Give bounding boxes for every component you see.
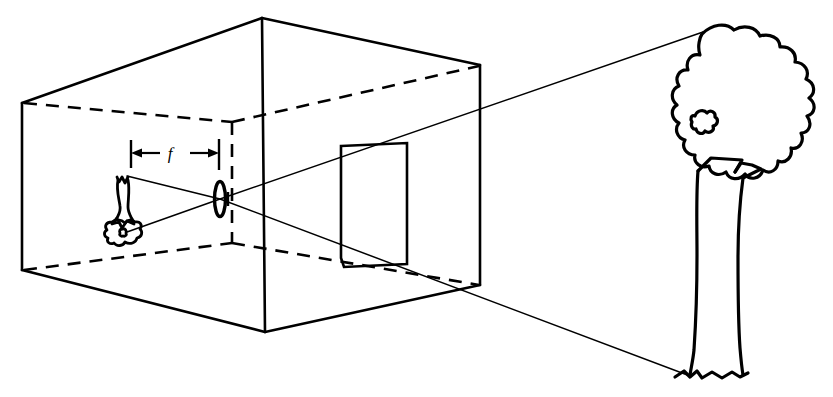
tree-canopy-hole (691, 111, 717, 134)
box-edge-top-right-slant (262, 18, 480, 65)
box-edge-bottom-right-slant (265, 285, 480, 332)
inverted-image-canopy-hole (120, 229, 127, 236)
lower-ray (127, 176, 690, 376)
focal-dim-left-arrowhead (131, 149, 142, 158)
hidden-edge-bottom-back-left (24, 243, 232, 270)
inverted-image-trunk-left (117, 180, 120, 218)
focal-length-dimension: f (131, 139, 219, 170)
tree-object (672, 25, 814, 378)
tree-canopy-outline (672, 25, 814, 179)
hidden-edge-top-back-left (24, 103, 232, 122)
optics-diagram-canvas: f (0, 0, 833, 397)
box-edge-bottom-left-slant (22, 270, 265, 332)
camera-box (22, 18, 480, 332)
inverted-tree-image (104, 177, 141, 246)
inverted-image-canopy (104, 220, 141, 246)
box-edge-top-left-slant (22, 18, 262, 103)
box-edge-near-vertical (262, 18, 265, 332)
tree-root-flare (675, 371, 748, 378)
focal-length-label: f (168, 144, 175, 163)
inverted-image-trunk-right (128, 180, 132, 219)
camera-box-hidden-edges (24, 66, 479, 285)
tree-trunk-left (690, 171, 698, 375)
figure-container: f (0, 0, 833, 397)
hidden-edge-top-back-right (232, 66, 479, 122)
focal-dim-right-arrowhead (208, 149, 219, 158)
tree-trunk-right (738, 178, 743, 375)
